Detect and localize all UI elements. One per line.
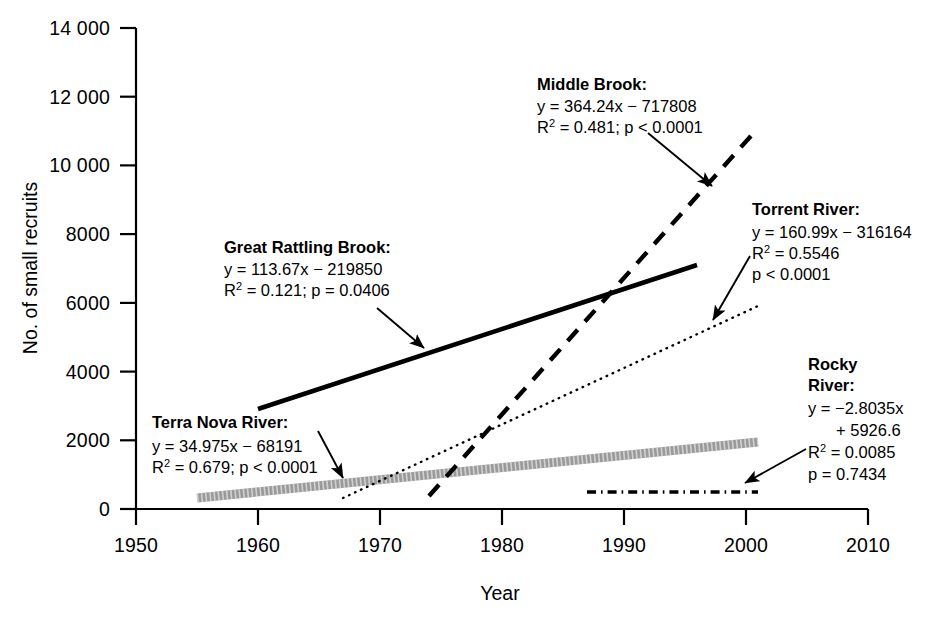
y-tick-label: 0 — [99, 498, 110, 520]
x-tick-label: 1970 — [358, 534, 402, 556]
annotation-stats: R2 = 0.481; p < 0.0001 — [537, 117, 703, 136]
annotation-equation: y = 364.24x − 717808 — [537, 97, 697, 115]
y-tick-label: 10 000 — [49, 154, 110, 176]
annotation-title: Torrent River: — [752, 200, 860, 218]
y-tick-label: 14 000 — [49, 17, 110, 39]
annotation-stats: R2 = 0.679; p < 0.0001 — [152, 457, 318, 476]
annotation-title: Great Rattling Brook: — [224, 238, 391, 256]
y-axis-title: No. of small recruits — [19, 182, 41, 355]
x-tick-label: 1980 — [480, 534, 524, 556]
regression-chart-figure: 14 000 12 000 10 000 8000 6000 4000 2000… — [0, 0, 946, 622]
annotation-equation: y = 34.975x − 68191 — [152, 437, 302, 455]
annotation-equation: y = −2.8035x — [808, 399, 904, 417]
annotation-title: Terra Nova River: — [152, 413, 288, 431]
x-axis-ticks — [136, 509, 868, 525]
leader-arrow-middle-brook — [648, 133, 712, 186]
chart-canvas: 14 000 12 000 10 000 8000 6000 4000 2000… — [0, 0, 946, 622]
annotation-torrent-river: Torrent River: y = 160.99x − 316164 R2 =… — [752, 200, 912, 283]
annotation-middle-brook: Middle Brook: y = 364.24x − 717808 R2 = … — [537, 75, 703, 136]
annotation-terra-nova-river: Terra Nova River: y = 34.975x − 68191 R2… — [152, 413, 318, 476]
y-axis-tick-labels: 14 000 12 000 10 000 8000 6000 4000 2000… — [49, 17, 110, 520]
annotation-equation-cont: + 5926.6 — [836, 421, 901, 439]
annotation-title: Middle Brook: — [537, 75, 647, 93]
y-tick-label: 2000 — [66, 429, 110, 451]
annotation-pvalue: p = 0.7434 — [808, 465, 886, 483]
y-tick-label: 8000 — [66, 223, 110, 245]
annotation-stats: R2 = 0.121; p = 0.0406 — [224, 280, 390, 299]
annotation-title: Rocky — [808, 355, 858, 373]
x-tick-label: 2010 — [846, 534, 890, 556]
x-tick-label: 2000 — [724, 534, 768, 556]
leader-arrow-rocky-river — [745, 449, 806, 483]
x-tick-label: 1960 — [236, 534, 280, 556]
annotation-rocky-river: Rocky River: y = −2.8035x + 5926.6 R2 = … — [808, 355, 904, 483]
leader-arrow-terra-nova-river — [318, 431, 343, 478]
x-axis-title: Year — [480, 582, 520, 604]
annotation-great-rattling-brook: Great Rattling Brook: y = 113.67x − 2198… — [224, 238, 391, 299]
annotation-equation: y = 160.99x − 316164 — [752, 223, 912, 241]
annotation-stats: R2 = 0.5546 — [752, 243, 839, 262]
annotation-pvalue: p < 0.0001 — [752, 265, 830, 283]
y-axis-ticks — [120, 28, 136, 509]
leader-arrow-great-rattling-brook — [377, 308, 424, 348]
annotation-stats: R2 = 0.0085 — [808, 442, 895, 461]
annotation-equation: y = 113.67x − 219850 — [224, 260, 382, 278]
series-line-torrent-river — [343, 306, 758, 498]
leader-arrow-torrent-river — [713, 256, 750, 320]
x-tick-label: 1990 — [602, 534, 646, 556]
y-tick-label: 6000 — [66, 292, 110, 314]
annotation-title-cont: River: — [808, 376, 855, 394]
x-tick-label: 1950 — [114, 534, 158, 556]
y-tick-label: 4000 — [66, 361, 110, 383]
y-tick-label: 12 000 — [49, 86, 110, 108]
x-axis-tick-labels: 1950 1960 1970 1980 1990 2000 2010 — [114, 534, 890, 556]
